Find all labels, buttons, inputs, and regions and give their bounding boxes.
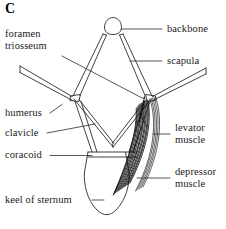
label-backbone: backbone [167,23,208,35]
label-clavicle: clavicle [5,127,38,139]
anatomy-figure-panel-c: C foramen triosseum humerus clavicle cor… [0,0,226,229]
label-depressor-muscle-line2: muscle [175,178,205,190]
label-keel-of-sternum: keel of sternum [5,194,72,206]
depressor-muscle-fibers [113,100,149,195]
label-foramen-triosseum-line2: triosseum [5,40,47,52]
scapula-right [123,34,152,96]
leader-lines [47,29,170,200]
scapula-right-cap [120,34,124,35]
scapula-left-inner [80,35,107,96]
label-scapula: scapula [167,55,199,67]
humerus-left-lower [20,73,73,101]
humerus-left-upper [20,66,72,97]
label-humerus: humerus [5,107,42,119]
humerus-right-lower [153,74,207,101]
panel-letter-c: C [5,1,15,17]
scapula-left-cap [103,34,107,35]
scapula-left [73,34,103,96]
leader-humerus [50,105,62,114]
leader-clavicle [47,124,95,133]
label-depressor-muscle-line1: depressor [175,166,216,178]
backbone-shape [105,18,122,35]
label-coracoid: coracoid [5,149,42,161]
scapula-right-inner [120,35,146,96]
label-foramen-triosseum-line1: foramen [5,28,41,40]
clavicle-left-inner [79,100,114,144]
label-levator-muscle-line2: muscle [175,134,205,146]
label-levator-muscle-line1: levator [175,122,205,134]
humerus-right-upper [153,68,207,97]
